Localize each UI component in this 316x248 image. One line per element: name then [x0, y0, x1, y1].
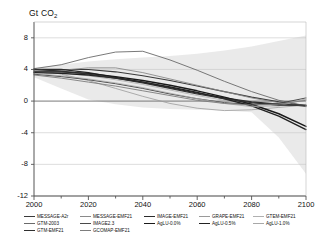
legend-item-label: AgLU-0.5% — [212, 220, 236, 227]
legend-item-label: IMAGE2.3 — [93, 220, 114, 227]
legend-item[interactable]: AgLU-0.0% — [144, 220, 181, 227]
legend-item[interactable]: GTEM-EMF21 — [253, 213, 296, 220]
legend-line-swatch — [80, 216, 91, 217]
legend-line-swatch — [80, 230, 91, 231]
x-tick-label: 2020 — [72, 200, 104, 209]
legend-line-swatch — [199, 216, 210, 217]
legend-line-swatch — [144, 216, 155, 217]
legend-item-label: MESSAGE-A2r — [37, 213, 68, 220]
x-tick-label: 2040 — [127, 200, 159, 209]
x-tick-label: 2100 — [290, 200, 316, 209]
x-tick-label: 2000 — [18, 200, 50, 209]
legend-item[interactable]: AgLU-0.5% — [199, 220, 236, 227]
legend-item[interactable]: AgLU-1.0% — [253, 220, 290, 227]
legend-item[interactable]: GCOMAP-EMF21 — [80, 227, 130, 234]
x-tick-label: 2060 — [181, 200, 213, 209]
legend-item-label: GCOMAP-EMF21 — [93, 227, 130, 234]
legend-line-swatch — [253, 216, 264, 217]
legend-item[interactable]: IMAGE2.3 — [80, 220, 114, 227]
y-tick-label: 8 — [6, 33, 28, 42]
series-legend: MESSAGE-A2rMESSAGE-EMF21IMAGE-EMF21GRAPE… — [24, 213, 316, 234]
legend-line-swatch — [24, 230, 35, 231]
legend-item-label: IMAGE-EMF21 — [157, 213, 188, 220]
legend-item[interactable]: GRAPE-EMF21 — [199, 213, 244, 220]
y-tick-label: 4 — [6, 64, 28, 73]
legend-line-swatch — [199, 223, 210, 224]
legend-item-label: GTEM-EMF21 — [266, 213, 296, 220]
legend-line-swatch — [24, 223, 35, 224]
legend-item[interactable]: GTM-EMF21 — [24, 227, 64, 234]
legend-line-swatch — [80, 223, 91, 224]
legend-item[interactable]: MESSAGE-EMF21 — [80, 213, 132, 220]
legend-item-label: GTM-EMF21 — [37, 227, 64, 234]
chart-container: Gt CO2 SRES range 840-4-8-12 20002020204… — [0, 0, 316, 248]
legend-line-swatch — [253, 223, 264, 224]
legend-item-label: MESSAGE-EMF21 — [93, 213, 132, 220]
y-tick-label: -12 — [6, 191, 28, 200]
legend-item[interactable]: IMAGE-EMF21 — [144, 213, 188, 220]
y-tick-label: -4 — [6, 128, 28, 137]
y-tick-label: -8 — [6, 159, 28, 168]
legend-item-label: AgLU-0.0% — [157, 220, 181, 227]
plot-area — [0, 0, 316, 248]
legend-item-label: GTM-2003 — [37, 220, 59, 227]
x-tick-label: 2080 — [236, 200, 268, 209]
legend-item[interactable]: MESSAGE-A2r — [24, 213, 68, 220]
y-tick-label: 0 — [6, 96, 28, 105]
legend-line-swatch — [24, 216, 35, 217]
legend-item[interactable]: GTM-2003 — [24, 220, 59, 227]
legend-item-label: GRAPE-EMF21 — [212, 213, 244, 220]
legend-item-label: AgLU-1.0% — [266, 220, 290, 227]
legend-line-swatch — [144, 223, 155, 224]
